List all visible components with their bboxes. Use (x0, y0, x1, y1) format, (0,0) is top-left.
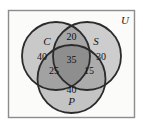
venn-diagram-canvas: U C S P 40 30 40 20 25 15 35 (0, 0, 143, 126)
set-label-p: P (67, 95, 75, 107)
count-s-only: 30 (96, 51, 106, 62)
set-label-s: S (93, 35, 99, 47)
count-c-only: 40 (37, 51, 47, 62)
count-c-and-p: 25 (49, 65, 59, 76)
universe-label: U (121, 14, 130, 26)
set-label-c: C (43, 35, 51, 47)
count-c-and-s: 20 (67, 31, 77, 42)
count-c-and-s-and-p: 35 (67, 54, 77, 65)
venn-diagram-figure: U C S P 40 30 40 20 25 15 35 (0, 0, 143, 126)
count-p-only: 40 (67, 84, 77, 95)
count-s-and-p: 15 (84, 65, 94, 76)
